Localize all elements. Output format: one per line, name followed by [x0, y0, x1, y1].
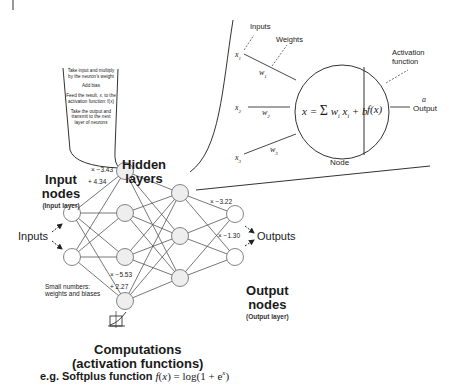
w3-label: w3 — [270, 146, 278, 156]
node-zoom-line — [196, 166, 430, 190]
output-node — [227, 249, 244, 266]
weight-out-1: × −3.22 — [210, 198, 232, 205]
hidden2-node — [172, 228, 189, 245]
activation-label-line1: Activation — [392, 48, 425, 57]
w2-label: w2 — [262, 109, 270, 119]
hidden1-node — [117, 205, 134, 222]
bias-top: + 4.34 — [88, 178, 106, 185]
inputs-label: Inputs — [18, 230, 48, 242]
callout-step-4: Take the output and transmit to the next… — [66, 109, 116, 126]
hidden2-node — [172, 270, 189, 287]
node-zoom-curve — [190, 20, 233, 172]
detail-inputs-label: Inputs — [250, 23, 270, 31]
activation-label-line2: function — [392, 57, 425, 66]
small-numbers-line2: weights and biases — [45, 290, 100, 297]
network-edge — [125, 278, 180, 301]
input-nodes-line2: nodes — [40, 187, 82, 201]
callout-steps: Take input and multiply by the neuron's … — [66, 68, 116, 130]
input-node — [64, 249, 81, 266]
callout-step-2: Add bias — [66, 83, 116, 89]
input-arrow-2 — [52, 241, 62, 249]
output-nodes-line2: nodes — [246, 298, 289, 312]
network-edge — [180, 214, 235, 278]
x3-label: x3 — [235, 154, 241, 164]
callout-step-1: Take input and multiply by the neuron's … — [66, 68, 116, 79]
node-label: Node — [330, 159, 349, 168]
hidden1-node — [117, 293, 134, 310]
x2-label: x2 — [235, 104, 241, 114]
hidden-layers-heading: Hidden layers — [122, 158, 166, 187]
detail-weights-label: Weights — [276, 36, 303, 44]
output-node — [227, 206, 244, 223]
output-nodes-heading: Output nodes (Output layer) — [246, 284, 289, 320]
hidden-layers-line2: layers — [122, 172, 166, 186]
activation-graph-icon — [108, 311, 126, 328]
node-detail — [244, 35, 410, 159]
softplus-formula: f(x) = log(1 + ex) — [156, 370, 230, 382]
x1-label: x1 — [235, 51, 241, 61]
input-arrow-1 — [52, 224, 62, 232]
small-numbers-label: Small numbers: weights and biases — [45, 283, 100, 297]
input-nodes-line1: Input — [40, 173, 82, 187]
output-layer-caption: (Output layer) — [246, 313, 289, 320]
bias-bottom: + 2.27 — [110, 283, 128, 290]
weight-out-2: × −1.30 — [218, 232, 240, 239]
weight-bottom: × −5.53 — [110, 271, 132, 278]
callout-step-3: Feed the result, x, to the activation fu… — [66, 93, 116, 104]
weight-top: × −3.43 — [91, 166, 113, 173]
softplus-caption: e.g. Softplus function f(x) = log(1 + ex… — [40, 370, 229, 382]
output-nodes-line1: Output — [246, 284, 289, 298]
hidden2-node — [172, 185, 189, 202]
detail-output-label: Output — [413, 105, 437, 114]
input-nodes-heading: Input nodes (Input layer) — [40, 173, 82, 209]
computations-heading: Computations (activation functions) — [72, 343, 203, 372]
w1-label: w1 — [259, 69, 267, 79]
output-arrow-1 — [245, 226, 254, 233]
hidden1-node — [117, 249, 134, 266]
hidden-layers-line1: Hidden — [122, 158, 166, 172]
output-arrow-2 — [245, 240, 254, 246]
softplus-prefix: e.g. Softplus function — [40, 370, 152, 382]
computations-line1: Computations — [72, 343, 203, 357]
activation-function-label: Activation function — [392, 48, 425, 66]
outputs-label: Outputs — [257, 230, 296, 242]
network-edges — [72, 171, 235, 301]
input-layer-caption: (Input layer) — [40, 202, 82, 209]
node-formula: x = Σ wi xi + b — [302, 103, 367, 120]
activation-fx: f(x) — [367, 103, 382, 115]
small-numbers-line1: Small numbers: — [45, 283, 100, 290]
